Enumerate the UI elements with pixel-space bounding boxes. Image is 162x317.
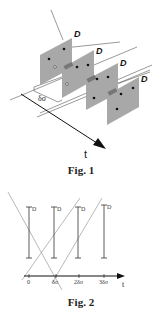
time-axis-label: t	[84, 148, 87, 160]
figure-1: D D D D δσ t	[0, 0, 162, 162]
figure-2-caption: Fig. 2	[0, 296, 162, 308]
bar-label-1: D	[32, 206, 37, 212]
bar-label-4: D	[107, 204, 112, 210]
time-axis-label: t	[122, 280, 125, 289]
tick-0: 0	[27, 279, 30, 285]
plane-label-2: D	[96, 46, 103, 56]
bar-label-2: D	[57, 206, 62, 212]
figure-1-diagram: D D D D δσ t	[0, 0, 162, 162]
arrow-head-icon	[93, 138, 106, 149]
bar-label-3: D	[81, 206, 86, 212]
plane-label-3: D	[120, 58, 127, 68]
tick-3: 3δσ	[99, 279, 109, 285]
plane-label-1: D	[74, 29, 81, 39]
figure-2-diagram: D D D D 0 δσ 2δσ 3δσ t	[0, 186, 162, 291]
axis-arrow-icon	[117, 273, 125, 279]
plane-label-4: D	[141, 74, 148, 84]
figure-1-caption: Fig. 1	[0, 164, 162, 176]
tick-2: 2δσ	[74, 279, 84, 285]
figure-2: D D D D 0 δσ 2δσ 3δσ t	[0, 186, 162, 291]
spacing-label: δσ	[38, 94, 47, 103]
tick-1: δσ	[52, 279, 59, 285]
